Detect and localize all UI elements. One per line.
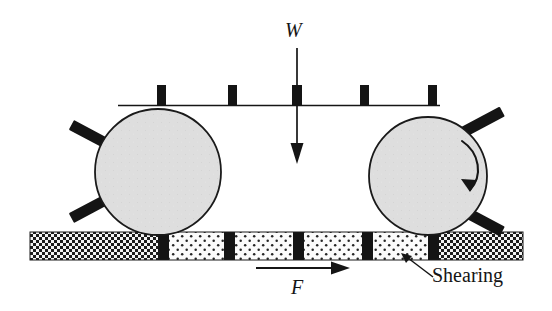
track-divider-4: [362, 232, 373, 260]
track-segment-sparse-2: [235, 232, 293, 260]
track-segment-sparse-3: [304, 232, 362, 260]
beam-stud-4: [360, 85, 369, 106]
load-arrow-head: [291, 143, 304, 164]
beam-stud-1: [157, 85, 166, 106]
track-segment-sparse-1: [169, 232, 224, 260]
track-segment-dense-left: [30, 232, 158, 260]
figure-root: W F Shearing: [0, 0, 552, 311]
force-label-f: F: [291, 277, 303, 297]
left-roller: [69, 109, 221, 235]
beam-stud-2: [228, 85, 237, 106]
left-roller-body: [95, 109, 221, 235]
layered-track: [30, 232, 523, 260]
load-beam: [118, 85, 440, 106]
right-roller: [369, 107, 505, 237]
track-segment-dense-right: [439, 232, 523, 260]
shearing-label: Shearing: [432, 265, 503, 285]
track-segment-sparse-4: [373, 232, 428, 260]
track-divider-2: [224, 232, 235, 260]
right-roller-body: [369, 117, 487, 235]
track-divider-3: [293, 232, 304, 260]
track-divider-1: [158, 232, 169, 260]
force-arrow-f: [256, 262, 350, 275]
load-label-w: W: [285, 20, 302, 40]
track-divider-5: [428, 232, 439, 260]
beam-stud-5: [428, 85, 437, 106]
force-arrow-head: [331, 262, 350, 275]
shearing-pointer-shaft: [408, 258, 433, 277]
